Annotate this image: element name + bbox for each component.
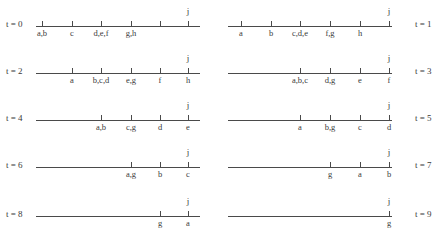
tick-mark: [330, 162, 331, 167]
tick-label: a: [239, 28, 243, 38]
tick-mark: [360, 115, 361, 120]
tick-mark: [131, 162, 132, 167]
timeline-row: a,gbcjt = 6gabjt = 7: [0, 141, 438, 190]
tick-mark: [160, 115, 161, 120]
timeline-row: ab,c,de,gfhjt = 2a,b,cd,gefjt = 3: [0, 47, 438, 96]
tick-label: c: [70, 28, 74, 38]
j-marker: j: [187, 147, 190, 157]
timeline-row: a,bc,gdejt = 4ab,gcdjt = 5: [0, 94, 438, 143]
j-marker: j: [187, 100, 190, 110]
time-label-t0: t = 0: [6, 19, 23, 30]
tick-label: f: [388, 75, 391, 85]
time-label-t3: t = 3: [415, 66, 432, 77]
tick-mark: [160, 211, 161, 216]
tick-mark: [160, 162, 161, 167]
tick-label: d,e,f: [93, 28, 108, 38]
tick-label: d: [387, 122, 391, 132]
tick-mark: [188, 68, 189, 73]
number-line-panel-t8: gajt = 8: [0, 190, 219, 239]
tick-mark: [188, 21, 189, 26]
tick-mark: [131, 115, 132, 120]
tick-mark: [160, 68, 161, 73]
tick-mark: [160, 21, 161, 26]
timeline-row: gajt = 8gjt = 9: [0, 190, 438, 239]
tick-mark: [300, 21, 301, 26]
tick-label: a,b: [96, 122, 106, 132]
tick-label: a: [70, 75, 74, 85]
j-marker: j: [388, 196, 391, 206]
number-line-panel-t1: abc,d,ef,ghjt = 1: [219, 0, 438, 49]
tick-mark: [101, 68, 102, 73]
number-line-panel-t4: a,bc,gdejt = 4: [0, 94, 219, 143]
tick-mark: [131, 68, 132, 73]
tick-label: d: [158, 122, 162, 132]
j-marker: j: [187, 53, 190, 63]
time-label-t2: t = 2: [6, 66, 23, 77]
number-line-panel-t6: a,gbcjt = 6: [0, 141, 219, 190]
tick-mark: [360, 68, 361, 73]
tick-mark: [42, 21, 43, 26]
axis-line: [228, 120, 392, 121]
j-marker: j: [388, 147, 391, 157]
tick-label: e,g: [126, 75, 136, 85]
number-line-panel-t3: a,b,cd,gefjt = 3: [219, 47, 438, 96]
tick-mark: [330, 115, 331, 120]
tick-label: d,g: [325, 75, 336, 85]
tick-label: a,b: [37, 28, 47, 38]
tick-mark: [72, 21, 73, 26]
axis-line: [36, 120, 200, 121]
tick-label: c,d,e: [292, 28, 308, 38]
time-label-t4: t = 4: [6, 113, 23, 124]
axis-line: [228, 73, 392, 74]
tick-label: g: [158, 218, 162, 228]
number-line-panel-t2: ab,c,de,gfhjt = 2: [0, 47, 219, 96]
axis-line: [36, 73, 200, 74]
tick-label: g: [328, 169, 332, 179]
tick-label: h: [186, 75, 190, 85]
tick-label: c: [358, 122, 362, 132]
tick-label: e: [186, 122, 190, 132]
tick-mark: [271, 21, 272, 26]
j-marker: j: [388, 100, 391, 110]
time-label-t1: t = 1: [415, 19, 432, 30]
tick-label: a: [186, 218, 190, 228]
tick-mark: [188, 115, 189, 120]
tick-mark: [131, 21, 132, 26]
tick-mark: [300, 115, 301, 120]
tick-mark: [72, 68, 73, 73]
axis-line: [228, 216, 392, 217]
tick-label: g: [387, 218, 391, 228]
tick-label: a,g: [126, 169, 136, 179]
tick-label: g,h: [126, 28, 137, 38]
axis-line: [228, 167, 392, 168]
tick-mark: [188, 211, 189, 216]
tick-mark: [389, 162, 390, 167]
tick-mark: [360, 162, 361, 167]
axis-line: [36, 216, 200, 217]
tick-label: c: [186, 169, 190, 179]
j-marker: j: [388, 53, 391, 63]
tick-mark: [389, 68, 390, 73]
tick-mark: [360, 21, 361, 26]
tick-mark: [188, 162, 189, 167]
tick-label: f: [159, 75, 162, 85]
tick-mark: [389, 211, 390, 216]
axis-line: [228, 26, 392, 27]
time-label-t6: t = 6: [6, 160, 23, 171]
tick-mark: [101, 115, 102, 120]
axis-line: [36, 167, 200, 168]
number-line-panel-t9: gjt = 9: [219, 190, 438, 239]
tick-label: b: [269, 28, 273, 38]
tick-mark: [300, 68, 301, 73]
tick-label: a: [298, 122, 302, 132]
timeline-diagram: a,bcd,e,fg,hjt = 0abc,d,ef,ghjt = 1ab,c,…: [0, 0, 438, 244]
tick-mark: [330, 21, 331, 26]
tick-mark: [101, 21, 102, 26]
tick-label: a: [358, 169, 362, 179]
tick-label: a,b,c: [292, 75, 308, 85]
time-label-t9: t = 9: [415, 209, 432, 220]
tick-label: e: [358, 75, 362, 85]
time-label-t5: t = 5: [415, 113, 432, 124]
number-line-panel-t0: a,bcd,e,fg,hjt = 0: [0, 0, 219, 49]
time-label-t7: t = 7: [415, 160, 432, 171]
